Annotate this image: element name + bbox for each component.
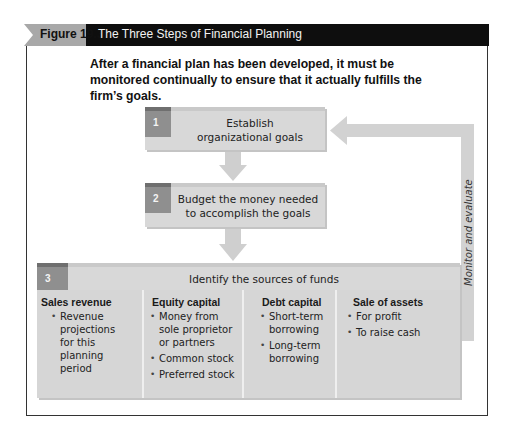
- monitor-evaluate-label: Monitor and evaluate: [463, 179, 474, 286]
- source-items: For profit To raise cash: [337, 310, 460, 339]
- source-title: Equity capital: [144, 296, 242, 308]
- source-title: Sale of assets: [337, 296, 460, 308]
- source-items: Short-term borrowing Long-term borrowing: [244, 310, 335, 365]
- step-3-top-edge: [37, 263, 460, 267]
- source-item: Short-term borrowing: [260, 310, 329, 336]
- step-1-number: 1: [153, 117, 159, 128]
- source-item: Common stock: [150, 352, 242, 365]
- step-2-top-edge: [145, 183, 325, 187]
- step-2-box: 2 Budget the money needed to accomplish …: [145, 183, 325, 227]
- source-debt-capital: Debt capital Short-term borrowing Long-t…: [242, 290, 335, 398]
- source-sales-revenue: Sales revenue Revenue projections for th…: [37, 290, 142, 398]
- source-item: Preferred stock: [150, 368, 242, 381]
- source-item: Long-term borrowing: [260, 339, 329, 365]
- source-equity-capital: Equity capital Money from sole proprieto…: [142, 290, 242, 398]
- source-sale-of-assets: Sale of assets For profit To raise cash: [335, 290, 460, 398]
- step-1-box: 1 Establish organizational goals: [145, 107, 325, 150]
- source-title: Sales revenue: [37, 296, 142, 308]
- step-3-badge: 3: [37, 263, 68, 290]
- step-3-text: Identify the sources of funds: [68, 272, 460, 286]
- step-3-number: 3: [45, 273, 51, 284]
- step-2-number: 2: [153, 193, 159, 204]
- step-2-text: Budget the money needed to accomplish th…: [173, 192, 323, 220]
- source-items: Revenue projections for this planning pe…: [37, 310, 142, 375]
- source-item: Money from sole proprietor or partners: [150, 310, 239, 349]
- source-item: To raise cash: [347, 326, 460, 339]
- step-1-top-edge: [145, 107, 325, 111]
- source-item: Revenue projections for this planning pe…: [51, 310, 122, 375]
- source-title: Debt capital: [244, 296, 335, 308]
- source-items: Money from sole proprietor or partners C…: [144, 310, 242, 381]
- step-1-text: Establish organizational goals: [175, 116, 325, 144]
- step-1-badge: 1: [145, 107, 171, 137]
- source-item: For profit: [347, 310, 460, 323]
- step-2-badge: 2: [145, 183, 171, 213]
